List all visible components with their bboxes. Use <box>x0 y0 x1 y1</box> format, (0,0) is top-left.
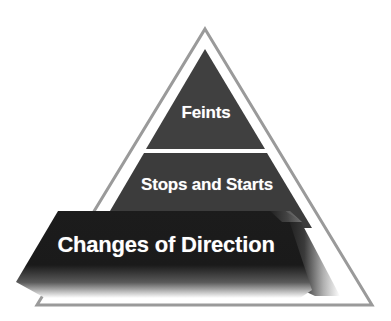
level-label-middle: Stops and Starts <box>141 175 273 195</box>
pyramid-diagram <box>0 0 391 321</box>
level-label-bottom: Changes of Direction <box>57 232 274 258</box>
level-label-top: Feints <box>182 103 231 123</box>
